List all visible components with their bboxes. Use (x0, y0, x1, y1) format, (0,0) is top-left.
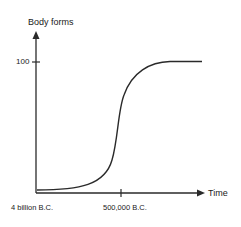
x-tick-label-start: 4 billion B.C. (11, 204, 53, 212)
x-axis-arrow-icon (197, 190, 205, 197)
y-axis-title: Body forms (28, 18, 74, 27)
x-axis-title: Time (208, 189, 228, 198)
sigmoid-curve (37, 62, 202, 191)
y-axis-arrow-icon (33, 31, 40, 39)
x-tick-label-mid: 500,000 B.C. (103, 204, 147, 212)
chart-canvas (0, 0, 241, 227)
y-tick-label-100: 100 (16, 58, 29, 66)
